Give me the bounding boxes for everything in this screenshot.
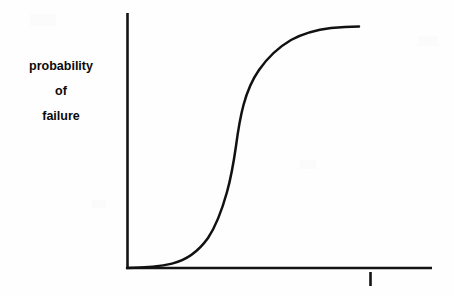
sigmoid-curve-group — [127, 26, 359, 268]
plot-area — [0, 0, 454, 297]
axes-group — [126, 13, 432, 286]
figure-canvas: probability of failure — [0, 0, 454, 297]
sigmoid-curve — [127, 26, 359, 268]
